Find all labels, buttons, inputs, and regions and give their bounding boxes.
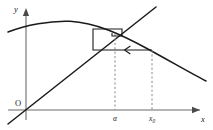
cobweb-diagram-canvas: y x O α x0	[0, 0, 213, 130]
tick-label-alpha: α	[113, 114, 118, 123]
tick-label-alpha-base: α	[113, 114, 118, 123]
origin-label: O	[15, 98, 21, 108]
x-axis-arrowhead	[192, 107, 200, 113]
y-axis-arrowhead	[23, 8, 29, 16]
tick-label-x0-subscript: 0	[152, 118, 155, 124]
y-axis-label: y	[13, 4, 18, 14]
x-axis-label: x	[200, 114, 205, 124]
diagonal-line-y-equals-x	[8, 7, 156, 124]
cobweb-diagram-figure: y x O α x0	[0, 0, 213, 130]
curve-g-of-x	[8, 21, 206, 81]
tick-label-x0: x0	[148, 114, 155, 124]
